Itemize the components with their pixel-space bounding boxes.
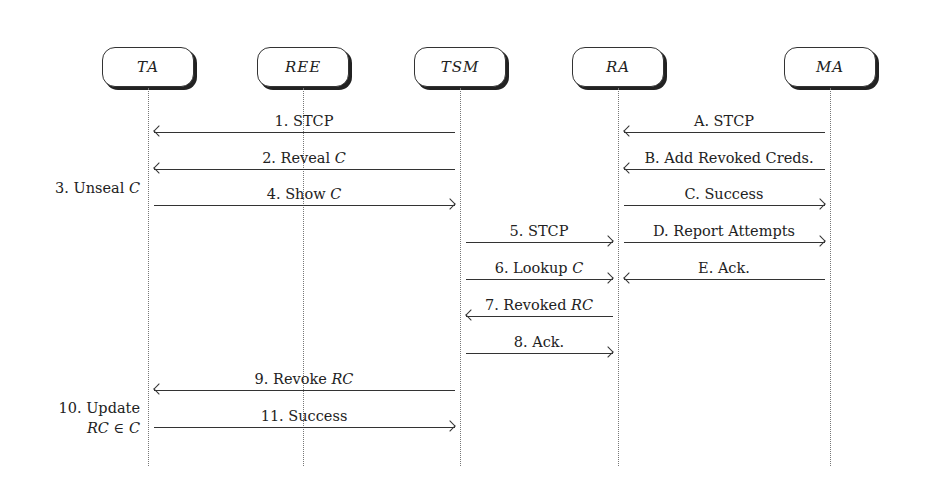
msg-arrow-7 xyxy=(466,310,613,324)
note-unseal: 3. Unseal C xyxy=(55,178,140,198)
msg-arrow-1 xyxy=(154,126,455,140)
actor-ta: TA xyxy=(102,47,194,87)
actor-tsm: TSM xyxy=(414,47,506,87)
msg-arrow-b xyxy=(624,163,825,177)
msg-arrow-d xyxy=(624,236,825,250)
lifeline-tsm xyxy=(460,88,461,466)
msg-arrow-6 xyxy=(466,273,613,287)
msg-arrow-e xyxy=(624,273,825,287)
lifeline-ma xyxy=(830,88,831,466)
msg-arrow-8 xyxy=(466,347,613,361)
msg-arrow-a xyxy=(624,126,825,140)
note-update: 10. Update RC ∈ C xyxy=(58,398,140,438)
lifeline-ta xyxy=(148,88,149,466)
msg-arrow-5 xyxy=(466,236,613,250)
msg-arrow-11 xyxy=(154,421,455,435)
lifeline-ra xyxy=(618,88,619,466)
msg-arrow-9 xyxy=(154,384,455,398)
msg-arrow-2 xyxy=(154,163,455,177)
note-update-line2: RC ∈ C xyxy=(58,418,140,438)
actor-ra: RA xyxy=(572,47,664,87)
actor-ma: MA xyxy=(784,47,876,87)
actor-ree: REE xyxy=(257,47,349,87)
msg-arrow-c xyxy=(624,199,825,213)
note-update-line1: 10. Update xyxy=(58,398,140,418)
msg-arrow-4 xyxy=(154,199,455,213)
